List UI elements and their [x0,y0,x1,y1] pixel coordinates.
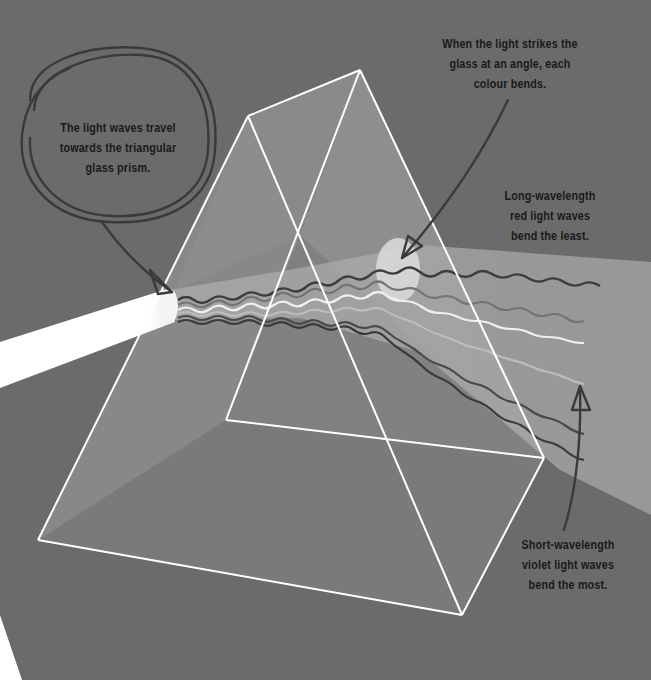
label-line: Long-wavelength [473,186,628,206]
label-incoming-light: The light waves travel towards the trian… [32,118,204,178]
label-line: The light waves travel [32,118,204,138]
label-red-waves: Long-wavelength red light waves bend the… [473,186,628,246]
label-line: When the light strikes the [424,34,596,54]
label-violet-waves: Short-wavelength violet light waves bend… [491,535,646,595]
label-line: glass at an angle, each [424,54,596,74]
label-line: bend the least. [473,226,628,246]
label-line: violet light waves [491,555,646,575]
label-line: colour bends. [424,74,596,94]
label-line: red light waves [473,206,628,226]
label-light-strikes: When the light strikes the glass at an a… [424,34,596,94]
label-line: glass prism. [32,158,204,178]
label-line: Short-wavelength [491,535,646,555]
label-line: bend the most. [491,575,646,595]
label-line: towards the triangular [32,138,204,158]
